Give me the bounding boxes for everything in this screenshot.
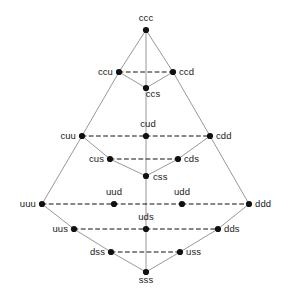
node-label-cuu: cuu <box>60 131 76 141</box>
node-uuu <box>39 201 45 207</box>
solid-edge-layer <box>42 30 249 272</box>
node-cdd <box>207 133 213 139</box>
node-label-ccu: ccu <box>98 67 113 77</box>
node-uds <box>143 226 149 232</box>
node-udd <box>179 201 185 207</box>
node-label-ddd: ddd <box>255 199 271 209</box>
edge-ccc-ccu <box>119 30 146 72</box>
edge-ccu-cuu <box>82 72 119 136</box>
edge-uss-sss <box>146 252 180 272</box>
node-uss <box>177 249 183 255</box>
node-cuu <box>79 133 85 139</box>
node-label-sss: sss <box>139 275 154 285</box>
edge-ccc-ccd <box>146 30 173 72</box>
node-ccd <box>170 69 176 75</box>
node-label-dds: dds <box>224 224 240 234</box>
node-label-uud: uud <box>106 187 122 197</box>
node-label-css: css <box>153 172 168 182</box>
node-dss <box>108 249 114 255</box>
node-cus <box>107 156 113 162</box>
node-label-uds: uds <box>138 212 154 222</box>
node-label-cdd: cdd <box>216 131 232 141</box>
dashed-edge-layer <box>42 72 249 252</box>
edge-dss-sss <box>111 252 146 272</box>
node-label-ccc: ccc <box>139 13 154 23</box>
node-label-cud: cud <box>140 119 156 129</box>
node-ddd <box>246 201 252 207</box>
node-label-uus: uus <box>52 224 68 234</box>
node-uud <box>111 201 117 207</box>
node-label-dss: dss <box>90 247 105 257</box>
node-ccc <box>143 27 149 33</box>
node-css <box>143 173 149 179</box>
node-label-cus: cus <box>89 154 104 164</box>
node-label-ccs: ccs <box>146 89 161 99</box>
node-label-cds: cds <box>184 154 199 164</box>
node-dds <box>215 226 221 232</box>
node-label-uss: uss <box>186 247 201 257</box>
node-uus <box>71 226 77 232</box>
node-cds <box>175 156 181 162</box>
node-ccu <box>116 69 122 75</box>
edge-ccd-ccs <box>146 72 173 88</box>
node-label-udd: udd <box>174 187 190 197</box>
weight-diagram: cccccuccdccscuucudcddcuscdscssuuuuududdd… <box>0 0 292 301</box>
edge-ccu-ccs <box>119 72 146 88</box>
edge-cdd-ddd <box>210 136 249 204</box>
edge-ccd-cdd <box>173 72 210 136</box>
diagram-canvas <box>0 0 292 301</box>
edge-cus-css <box>110 159 146 176</box>
node-label-ccd: ccd <box>179 67 194 77</box>
edge-cuu-uuu <box>42 136 82 204</box>
node-label-uuu: uuu <box>20 199 36 209</box>
node-layer <box>39 27 252 275</box>
node-cud <box>143 133 149 139</box>
